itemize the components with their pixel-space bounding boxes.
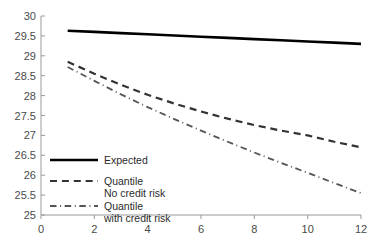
y-axis-ticks: 2525.52626.52727.52828.52929.530: [15, 10, 45, 221]
y-tick-label: 30: [24, 10, 36, 22]
y-tick-label: 25.5: [15, 189, 36, 201]
y-tick-label: 28.5: [15, 70, 36, 82]
series-line: [68, 62, 361, 148]
y-tick-label: 27: [24, 129, 36, 141]
legend-label: Quantile: [104, 175, 143, 187]
x-tick-label: 10: [302, 223, 314, 235]
legend-label-secondary: with credit risk: [103, 212, 171, 224]
x-tick-label: 8: [251, 223, 257, 235]
y-tick-label: 27.5: [15, 110, 36, 122]
x-tick-label: 4: [145, 223, 151, 235]
y-tick-label: 26.5: [15, 149, 36, 161]
x-tick-label: 2: [91, 223, 97, 235]
x-tick-label: 0: [38, 223, 44, 235]
line-chart: 2525.52626.52727.52828.52929.530 0246810…: [0, 0, 372, 250]
y-tick-label: 29.5: [15, 30, 36, 42]
chart-legend: ExpectedQuantileNo credit riskQuantilewi…: [50, 154, 171, 224]
series-line: [68, 31, 361, 44]
y-tick-label: 29: [24, 50, 36, 62]
x-tick-label: 12: [355, 223, 367, 235]
legend-label: Quantile: [104, 200, 143, 212]
legend-label-secondary: No credit risk: [104, 187, 166, 199]
y-tick-label: 25: [24, 209, 36, 221]
x-axis-ticks: 024681012: [38, 215, 367, 235]
legend-label: Expected: [104, 154, 148, 166]
data-series-group: [68, 31, 361, 193]
chart-container: 2525.52626.52727.52828.52929.530 0246810…: [0, 0, 372, 250]
y-tick-label: 28: [24, 90, 36, 102]
y-tick-label: 26: [24, 169, 36, 181]
x-tick-label: 6: [198, 223, 204, 235]
